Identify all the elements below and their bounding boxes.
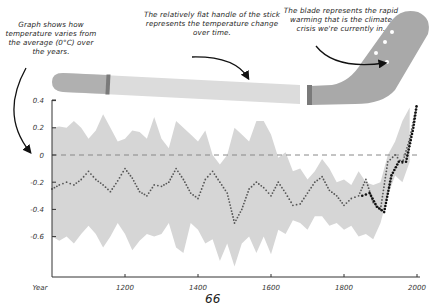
stick-blade bbox=[310, 11, 429, 105]
stick-handle-grip bbox=[52, 73, 108, 94]
svg-text:1400: 1400 bbox=[189, 284, 207, 292]
page-number: 66 bbox=[205, 292, 220, 306]
svg-text:0.2: 0.2 bbox=[33, 124, 45, 132]
svg-text:2000: 2000 bbox=[408, 284, 426, 292]
arrow-mid-icon bbox=[192, 57, 248, 78]
svg-text:Year: Year bbox=[33, 284, 49, 292]
stick-band-right bbox=[307, 85, 312, 105]
svg-text:1200: 1200 bbox=[116, 284, 134, 292]
svg-text:-0.4: -0.4 bbox=[30, 206, 44, 214]
svg-text:-0.6: -0.6 bbox=[30, 233, 44, 241]
svg-text:0.4: 0.4 bbox=[33, 97, 44, 105]
svg-text:1600: 1600 bbox=[262, 284, 280, 292]
hockey-stick-illustration bbox=[52, 11, 429, 105]
svg-text:1800: 1800 bbox=[335, 284, 353, 292]
svg-text:0: 0 bbox=[40, 152, 45, 160]
svg-text:-0.2: -0.2 bbox=[30, 179, 44, 187]
arrow-left-icon bbox=[14, 68, 30, 152]
hockey-stick-chart: 12001400160018002000Year0.40.20-0.2-0.4-… bbox=[0, 0, 433, 307]
